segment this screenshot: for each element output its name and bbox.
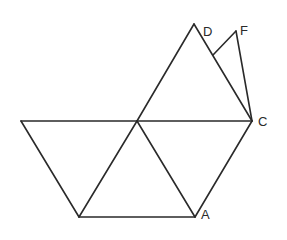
diagram-edges: [21, 24, 252, 217]
edge-od: [137, 24, 194, 121]
edge-bo: [79, 121, 137, 217]
label-a: A: [201, 207, 210, 222]
label-d: D: [203, 24, 212, 39]
edge-lb: [21, 121, 79, 217]
edge-ac: [195, 121, 252, 217]
label-f: F: [240, 23, 248, 38]
label-c: C: [258, 114, 267, 129]
edge-gf: [213, 31, 236, 55]
geometry-diagram: D F C A: [0, 0, 287, 240]
edge-oa: [137, 121, 195, 217]
